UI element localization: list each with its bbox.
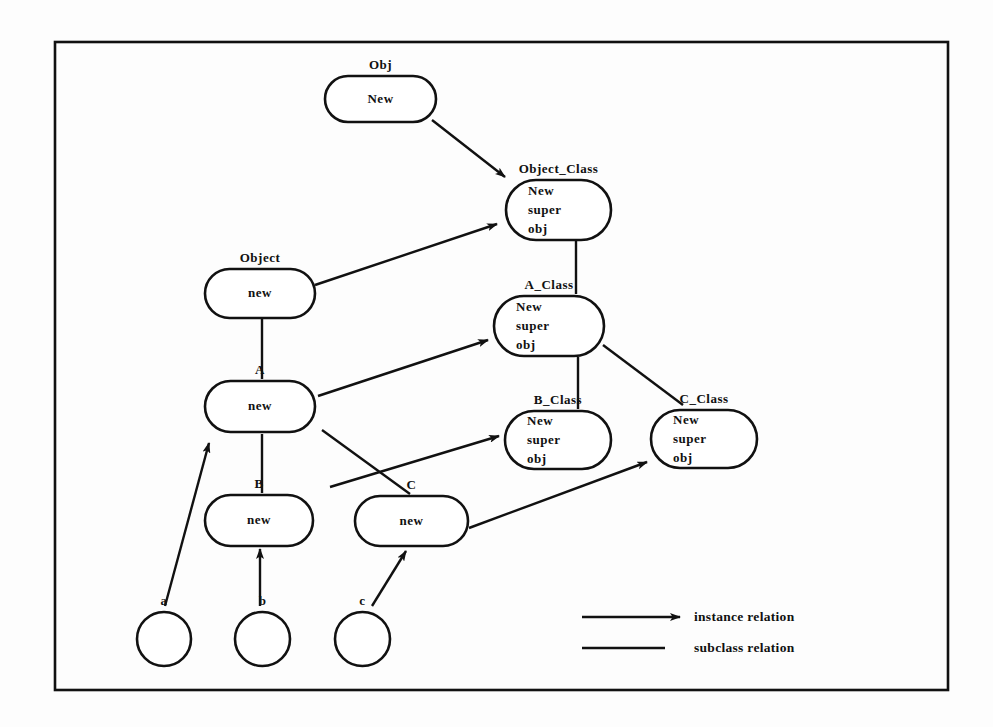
node-inst_a[interactable] [137,612,191,666]
node-body-line: New [673,410,707,429]
node-inst_c[interactable] [335,612,390,666]
node-body-line: super [673,429,707,448]
node-label-inst_b: b [259,593,267,609]
diagram-border [55,42,948,690]
diagram-frame [55,42,948,690]
legend-instance-label: instance relation [694,609,794,625]
node-body-line: New [367,89,393,108]
node-body-object_class: Newsuperobj [528,181,562,238]
node-label-c: C [407,477,417,493]
node-body-b_class: Newsuperobj [527,411,561,468]
node-body-line: new [400,511,424,530]
node-label-b: B [254,476,263,492]
node-body-object: new [248,283,272,302]
node-body-line: obj [527,449,561,468]
node-label-c_class: C_Class [679,391,728,407]
node-body-line: New [528,181,562,200]
node-label-obj: Obj [369,57,392,73]
node-label-b_class: B_Class [534,392,582,408]
node-body-b: new [247,510,271,529]
node-label-a_class: A_Class [524,277,573,293]
node-body-line: obj [673,448,707,467]
node-body-c: new [400,511,424,530]
node-body-line: super [527,430,561,449]
node-body-line: obj [528,219,562,238]
node-body-line: new [248,396,272,415]
diagram-vector-layer [0,0,993,727]
node-label-object: Object [240,250,281,266]
node-label-inst_c: c [359,593,365,609]
node-body-a_class: Newsuperobj [516,297,550,354]
node-body-line: new [247,510,271,529]
node-label-inst_a: a [161,593,168,609]
node-inst_b[interactable] [235,612,290,666]
node-body-line: obj [516,335,550,354]
node-label-object_class: Object_Class [519,161,599,177]
node-body-line: new [248,283,272,302]
node-body-line: super [528,200,562,219]
legend-subclass-label: subclass relation [694,640,795,656]
node-body-line: super [516,316,550,335]
node-body-c_class: Newsuperobj [673,410,707,467]
node-body-line: New [527,411,561,430]
node-body-obj: New [367,89,393,108]
node-body-line: New [516,297,550,316]
node-label-a: A [255,362,265,378]
node-body-a: new [248,396,272,415]
diagram-canvas: ObjNewObject_ClassNewsuperobjObjectnewA_… [0,0,993,727]
